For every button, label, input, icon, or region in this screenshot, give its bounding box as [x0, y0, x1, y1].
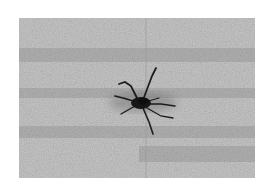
cell-nucleus — [138, 98, 148, 105]
micrograph-image — [19, 18, 255, 178]
micrograph-svg — [19, 18, 255, 178]
